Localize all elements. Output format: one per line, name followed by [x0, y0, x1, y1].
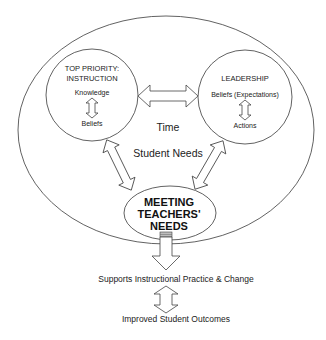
- meeting-label: MEETING: [144, 196, 194, 208]
- diagram-canvas: TOP PRIORITY: INSTRUCTION Knowledge Beli…: [0, 0, 326, 340]
- teachers-to-practice-down-arrow-icon: [152, 237, 180, 270]
- supports-practice-label: Supports Instructional Practice & Change: [98, 274, 254, 284]
- beliefs-label: Beliefs: [81, 120, 103, 127]
- instruction-title-line1: TOP PRIORITY:: [65, 64, 119, 73]
- practice-outcomes-double-arrow-icon: [154, 286, 178, 313]
- needs-label: NEEDS: [150, 220, 188, 232]
- leadership-title: LEADERSHIP: [221, 74, 269, 83]
- knowledge-label: Knowledge: [75, 89, 110, 97]
- leadership-teachers-double-arrow-icon: [187, 136, 231, 193]
- improved-outcomes-label: Improved Student Outcomes: [122, 314, 230, 324]
- instruction-title-line2: INSTRUCTION: [66, 74, 117, 83]
- beliefs-expectations-label: Beliefs (Expectations): [211, 91, 279, 99]
- instruction-leadership-double-arrow-icon: [138, 85, 198, 107]
- teachers-label: TEACHERS': [137, 208, 201, 220]
- beliefs-actions-double-arrow-icon: [239, 100, 251, 120]
- knowledge-beliefs-double-arrow-icon: [86, 98, 98, 118]
- time-label: Time: [157, 121, 180, 133]
- instruction-teachers-double-arrow-icon: [99, 136, 140, 194]
- student-needs-label: Student Needs: [133, 147, 202, 159]
- actions-label: Actions: [234, 122, 257, 129]
